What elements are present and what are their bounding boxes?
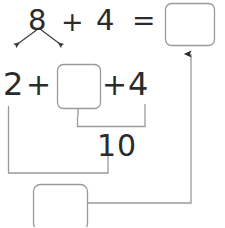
bottom-answer-box[interactable] bbox=[34, 185, 88, 228]
sum-bracket bbox=[9, 106, 109, 173]
top-plus-operator: + bbox=[61, 8, 84, 35]
top-answer-box[interactable] bbox=[166, 4, 215, 46]
middle-plus-operator-1: + bbox=[26, 70, 51, 100]
middle-term-1: 2 bbox=[3, 68, 23, 100]
math-worksheet-diagram: 8 + 4 = 2 + + 4 10 bbox=[0, 0, 225, 227]
middle-term-3: 4 bbox=[128, 68, 148, 100]
top-addend-2: 4 bbox=[96, 6, 114, 35]
top-addend-1: 8 bbox=[28, 6, 46, 35]
subtotal-value: 10 bbox=[97, 131, 137, 161]
decomposition-box[interactable] bbox=[58, 65, 101, 109]
top-equals-operator: = bbox=[132, 7, 155, 35]
middle-plus-operator-2: + bbox=[102, 70, 127, 100]
